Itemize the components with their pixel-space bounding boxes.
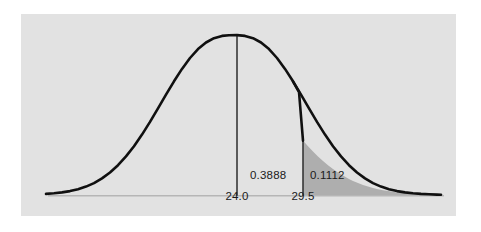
area-label-right-tail: 0.1112 <box>310 169 345 181</box>
normal-distribution-figure: 24.0 29.5 0.3888 0.1112 <box>0 0 481 232</box>
distribution-plot-svg <box>21 14 456 216</box>
plot-panel: 24.0 29.5 0.3888 0.1112 <box>21 14 456 216</box>
x-tick-label-mean: 24.0 <box>225 190 248 202</box>
x-tick-label-cutoff: 29.5 <box>291 190 314 202</box>
area-label-mean-to-cutoff: 0.3888 <box>250 169 286 181</box>
